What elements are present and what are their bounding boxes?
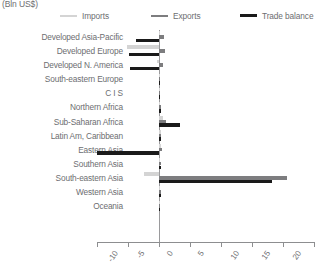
bar-group: [97, 185, 314, 199]
axis-tick-label: 20: [291, 249, 303, 261]
axis-tick: [159, 242, 160, 247]
trade-balance-chart: (Bln US$) ImportsExportsTrade balance De…: [0, 0, 318, 276]
bar-balance: [129, 53, 159, 57]
chart-legend: ImportsExportsTrade balance: [60, 9, 316, 23]
legend-label: Exports: [173, 11, 200, 21]
bar-balance: [159, 208, 160, 212]
bar-balance: [159, 137, 161, 141]
axis-tick: [283, 242, 284, 247]
plot-area: [97, 30, 314, 242]
bar-group: [97, 58, 314, 72]
legend-item-trade-balance[interactable]: Trade balance: [240, 9, 313, 22]
legend-item-exports[interactable]: Exports: [151, 9, 200, 22]
bar-balance: [136, 39, 159, 43]
bar-group: [97, 171, 314, 185]
legend-label: Trade balance: [262, 11, 313, 21]
axis-tick-label: 0: [165, 249, 175, 258]
bar-balance: [159, 109, 161, 113]
line-swatch-icon: [240, 14, 257, 17]
bar-group: [97, 143, 314, 157]
bar-group: [97, 157, 314, 171]
bar-imports: [127, 45, 159, 49]
legend-item-imports[interactable]: Imports: [60, 9, 109, 22]
axis-tick: [190, 242, 191, 247]
bar-balance: [159, 81, 160, 85]
bar-group: [97, 100, 314, 114]
bar-group: [97, 115, 314, 129]
axis-tick: [252, 242, 253, 247]
axis-tick-label: 10: [229, 249, 241, 261]
axis-tick-label: 15: [260, 249, 272, 261]
bar-group: [97, 30, 314, 44]
axis-tick: [314, 242, 315, 247]
bar-group: [97, 86, 314, 100]
bar-exports: [159, 63, 163, 67]
bar-group: [97, 72, 314, 86]
bar-balance: [159, 123, 180, 127]
bar-balance: [159, 95, 160, 99]
bar-exports: [159, 49, 165, 53]
bar-balance: [159, 166, 161, 170]
line-swatch-icon: [60, 15, 77, 17]
bar-exports: [159, 148, 162, 152]
bar-imports: [144, 172, 159, 176]
legend-label: Imports: [82, 11, 109, 21]
bar-balance: [97, 151, 159, 155]
axis-tick: [128, 242, 129, 247]
axis-tick-label: -10: [106, 249, 120, 264]
bar-exports: [159, 35, 164, 39]
bar-balance: [159, 194, 161, 198]
axis-tick: [97, 242, 98, 247]
bar-group: [97, 44, 314, 58]
bar-balance: [130, 67, 159, 71]
bar-group: [97, 129, 314, 143]
line-swatch-icon: [151, 15, 168, 17]
value-axis: -10-50510152025: [97, 242, 314, 243]
chart-unit-title: (Bln US$): [2, 0, 38, 9]
axis-tick: [221, 242, 222, 247]
bar-group: [97, 199, 314, 213]
bar-balance: [159, 180, 272, 184]
axis-tick-label: -5: [135, 249, 146, 260]
axis-tick-label: 5: [196, 249, 206, 258]
